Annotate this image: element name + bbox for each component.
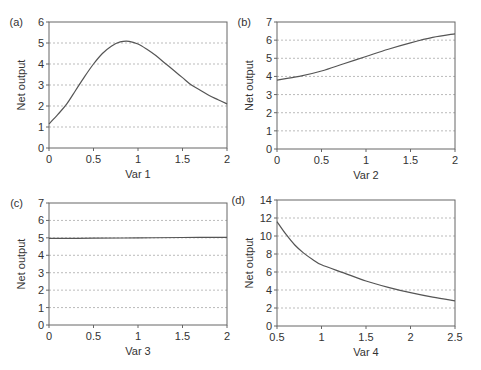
y-tick-label: 6 [266, 34, 272, 46]
plot-frame [277, 22, 455, 149]
figure: 012345600.511.52Var 1Net output(a) 01234… [0, 0, 481, 370]
y-tick-label: 14 [260, 194, 272, 206]
y-axis-label: Net output [243, 238, 255, 289]
x-tick-label: 2.5 [447, 331, 462, 343]
x-tick-label: 0 [274, 154, 280, 166]
x-tick-label: 1 [135, 330, 141, 342]
y-tick-label: 0 [38, 142, 44, 154]
data-series-line [49, 237, 227, 238]
y-tick-label: 1 [266, 125, 272, 137]
x-tick-label: 2 [452, 154, 458, 166]
data-series-line [49, 41, 227, 124]
plot-frame [49, 203, 227, 325]
x-tick-label: 2 [224, 153, 230, 165]
x-tick-label: 0.5 [269, 331, 284, 343]
x-tick-label: 1.5 [358, 331, 373, 343]
x-axis-label: Var 1 [125, 168, 150, 180]
x-tick-label: 1.5 [175, 153, 190, 165]
y-tick-label: 6 [38, 214, 44, 226]
panel-label: (c) [10, 197, 23, 209]
y-tick-label: 4 [38, 249, 44, 261]
x-tick-label: 2 [224, 330, 230, 342]
x-tick-label: 1 [135, 153, 141, 165]
x-tick-label: 2 [407, 331, 413, 343]
x-tick-label: 0 [46, 153, 52, 165]
x-tick-label: 0.5 [86, 153, 101, 165]
y-tick-label: 5 [38, 37, 44, 49]
x-tick-label: 1 [363, 154, 369, 166]
y-tick-label: 2 [266, 107, 272, 119]
x-axis-label: Var 2 [353, 169, 378, 181]
y-tick-label: 5 [38, 232, 44, 244]
y-tick-label: 4 [266, 284, 272, 296]
panel-d: 024681012140.511.522.5Var 4Net output(d) [232, 194, 463, 358]
x-axis-label: Var 3 [125, 345, 150, 357]
panel-b: 0123456700.511.52Var 2Net output(b) [238, 16, 459, 181]
y-tick-label: 10 [260, 230, 272, 242]
x-tick-label: 1 [318, 331, 324, 343]
y-tick-label: 4 [266, 70, 272, 82]
y-tick-label: 6 [38, 16, 44, 28]
y-tick-label: 3 [266, 89, 272, 101]
x-tick-label: 0.5 [314, 154, 329, 166]
y-tick-label: 7 [266, 16, 272, 28]
y-tick-label: 7 [38, 197, 44, 209]
x-tick-label: 0.5 [86, 330, 101, 342]
x-tick-label: 1.5 [403, 154, 418, 166]
y-axis-label: Net output [15, 239, 27, 290]
panel-label: (b) [238, 16, 251, 28]
data-series-line [277, 34, 455, 80]
y-tick-label: 4 [38, 58, 44, 70]
y-tick-label: 5 [266, 52, 272, 64]
panel-label: (d) [232, 194, 245, 206]
x-tick-label: 1.5 [175, 330, 190, 342]
x-axis-label: Var 4 [353, 346, 378, 358]
y-tick-label: 0 [38, 319, 44, 331]
y-tick-label: 3 [38, 267, 44, 279]
y-tick-label: 2 [266, 302, 272, 314]
data-series-line [277, 222, 455, 301]
plot-frame [277, 200, 455, 326]
panel-label: (a) [10, 16, 23, 28]
y-tick-label: 3 [38, 79, 44, 91]
y-tick-label: 2 [38, 100, 44, 112]
x-tick-label: 0 [46, 330, 52, 342]
y-tick-label: 1 [38, 302, 44, 314]
y-axis-label: Net output [243, 60, 255, 111]
y-tick-label: 0 [266, 143, 272, 155]
y-tick-label: 8 [266, 248, 272, 260]
y-tick-label: 2 [38, 284, 44, 296]
panel-c: 0123456700.511.52Var 3Net output(c) [10, 197, 230, 357]
y-axis-label: Net output [15, 60, 27, 111]
y-tick-label: 1 [38, 121, 44, 133]
y-tick-label: 12 [260, 212, 272, 224]
panel-a: 012345600.511.52Var 1Net output(a) [10, 16, 231, 180]
y-tick-label: 6 [266, 266, 272, 278]
